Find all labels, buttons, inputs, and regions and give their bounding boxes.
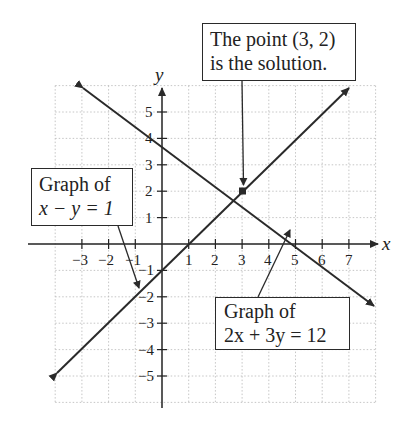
callout-line2-text-1: Graph of [224,299,349,323]
x-axis-label: x [381,233,391,254]
y-axis-label: y [153,64,164,85]
callout-line1-box: Graph of x − y = 1 [31,168,133,226]
callout-solution-box: The point (3, 2) is the solution. [202,23,356,81]
svg-text:−4: −4 [138,342,154,358]
callout-arrow-solution [242,81,244,185]
solution-point-marker [239,188,246,195]
x-tick-labels: −3 −2 −1 1 2 3 4 5 6 7 [72,252,353,268]
callout-line2-text-2: 2x + 3y = 12 [224,323,349,347]
svg-text:−2: −2 [98,252,114,268]
svg-text:1: 1 [185,252,193,268]
svg-text:2: 2 [211,252,219,268]
svg-text:3: 3 [238,252,246,268]
coordinate-plane-diagram: x y −3 −2 −1 1 2 3 4 5 6 7 [0,0,415,428]
callout-line1-text-2: x − y = 1 [39,196,132,220]
svg-text:5: 5 [145,104,153,120]
svg-text:3: 3 [145,157,153,173]
svg-text:−3: −3 [72,252,88,268]
callout-arrow-line2 [258,230,290,297]
callout-solution-text-2: is the solution. [210,51,355,75]
svg-text:2: 2 [145,183,153,199]
callout-line1-text-1: Graph of [39,172,132,196]
svg-text:5: 5 [291,252,299,268]
svg-text:1: 1 [145,210,153,226]
svg-text:4: 4 [264,252,272,268]
callout-solution-text-1: The point (3, 2) [210,27,355,51]
svg-text:−1: −1 [138,262,154,278]
callout-line2-box: Graph of 2x + 3y = 12 [215,297,350,350]
svg-text:−3: −3 [138,315,154,331]
svg-text:−5: −5 [138,368,154,384]
svg-text:7: 7 [345,252,353,268]
